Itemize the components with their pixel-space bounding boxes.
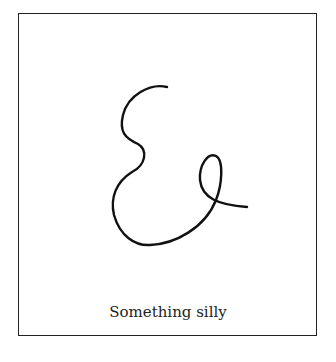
caption-text: Something silly [0,303,336,321]
scribble-stroke [113,86,247,245]
